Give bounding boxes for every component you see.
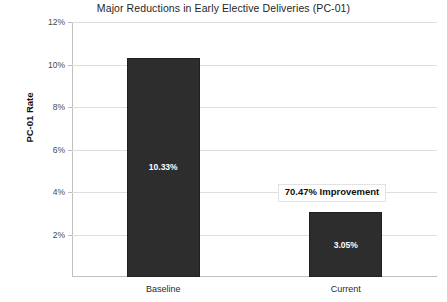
y-axis-title: PC-01 Rate xyxy=(24,73,35,163)
bar-baseline[interactable]: 10.33%Baseline xyxy=(127,58,200,278)
plot-area: 2%4%6%8%10%12% 10.33%Baseline3.05%Curren… xyxy=(72,22,437,277)
gridline xyxy=(72,22,437,23)
y-axis-tick-label: 12% xyxy=(48,17,65,27)
improvement-annotation: 70.47% Improvement xyxy=(278,184,387,201)
y-axis-tick-label: 6% xyxy=(53,145,65,155)
bar-value-label: 10.33% xyxy=(128,162,199,172)
chart-title: Major Reductions in Early Elective Deliv… xyxy=(0,2,447,14)
y-axis-tick xyxy=(68,65,72,66)
y-axis-tick-label: 4% xyxy=(53,187,65,197)
x-axis-category-label: Current xyxy=(310,284,381,294)
bar-value-label: 3.05% xyxy=(310,240,381,250)
y-axis-tick xyxy=(68,22,72,23)
y-axis-tick-label: 2% xyxy=(53,230,65,240)
y-axis-tick xyxy=(68,235,72,236)
bar-current[interactable]: 3.05%Current xyxy=(309,212,382,277)
y-axis-tick xyxy=(68,192,72,193)
y-axis-tick xyxy=(68,107,72,108)
y-axis-tick-label: 8% xyxy=(53,102,65,112)
y-axis-tick xyxy=(68,150,72,151)
y-axis-tick-label: 10% xyxy=(48,60,65,70)
chart-container: Major Reductions in Early Elective Deliv… xyxy=(0,0,447,302)
x-axis-category-label: Baseline xyxy=(128,284,199,294)
